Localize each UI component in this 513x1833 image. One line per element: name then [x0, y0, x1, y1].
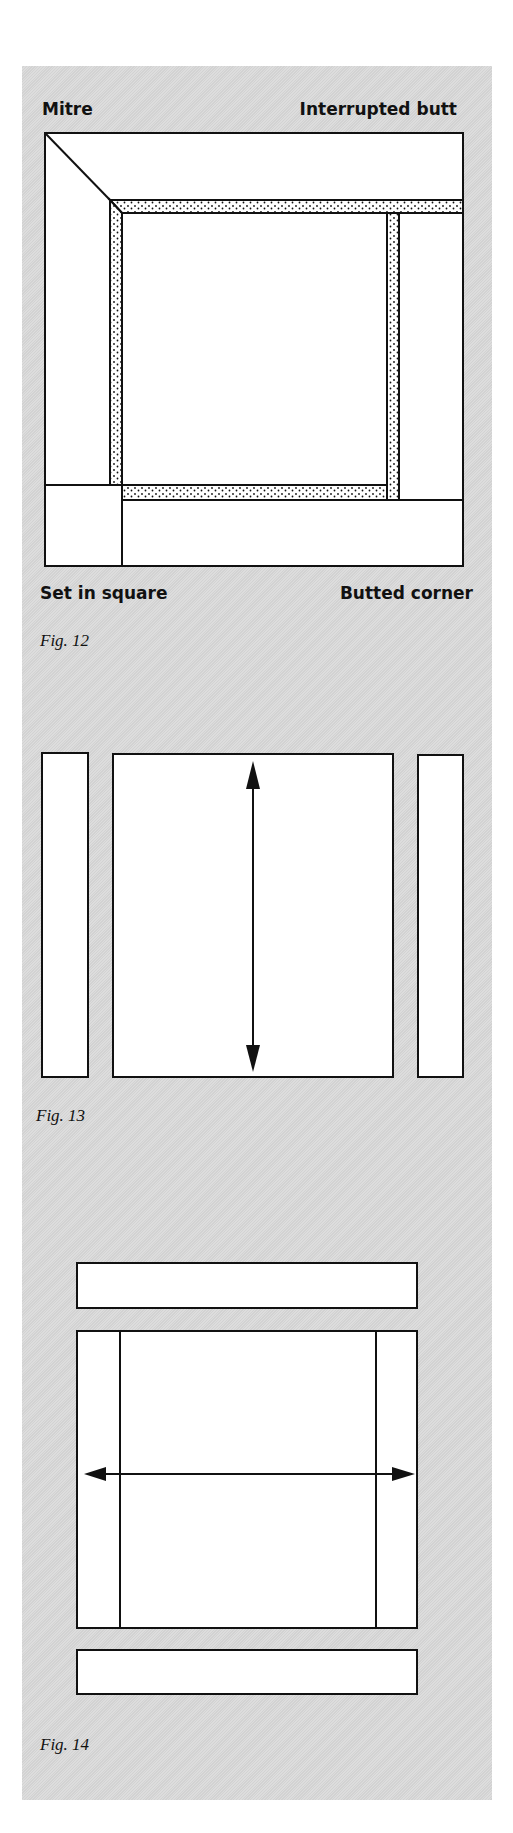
- fig14-diagram: [0, 0, 513, 1833]
- fig14-centre-frame: [77, 1331, 417, 1628]
- fig14-bottom-strip: [77, 1650, 417, 1694]
- caption-fig14: Fig. 14: [40, 1736, 89, 1753]
- fig14-top-strip: [77, 1263, 417, 1308]
